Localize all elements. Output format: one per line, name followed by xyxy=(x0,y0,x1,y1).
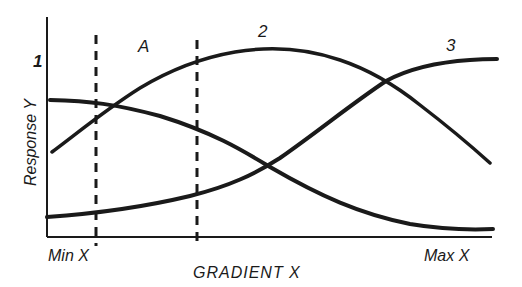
curve-3 xyxy=(47,59,497,217)
curve-2-label: 2 xyxy=(257,22,268,41)
region-a-label: A xyxy=(137,37,149,56)
x-axis-label: GRADIENT X xyxy=(193,264,301,281)
species-response-diagram: 1 A 2 3 Response Y GRADIENT X Min X Max … xyxy=(0,0,522,287)
x-max-label: Max X xyxy=(424,247,471,264)
curve-3-label: 3 xyxy=(446,36,456,55)
curve-1-label: 1 xyxy=(33,52,42,71)
y-axis-label: Response Y xyxy=(22,98,39,186)
x-min-label: Min X xyxy=(48,247,90,264)
